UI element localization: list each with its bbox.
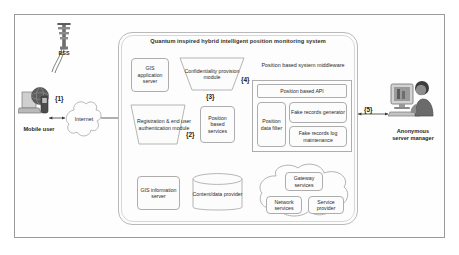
confidentiality-provision-module-node[interactable]: Confidentiality provision module	[179, 57, 245, 91]
gis-information-server-node[interactable]: GIS information server	[137, 176, 180, 210]
network-services-node[interactable]: Network services	[266, 196, 302, 214]
position-based-api-node[interactable]: Position based API	[257, 84, 347, 98]
step-marker-3: {3}	[206, 93, 215, 100]
step-marker-5: {5}	[364, 106, 373, 113]
registration-authentication-module-label: Registration & end user authentication m…	[130, 104, 198, 145]
fake-records-generator-node[interactable]: Fake records generator	[289, 102, 347, 123]
internet-cloud: Internet	[64, 97, 104, 141]
server-manager-label: Anonymous server manager	[384, 128, 442, 143]
bss-label: BSS	[44, 50, 84, 56]
diagram-root: BSS Mobile user Internet Quantum inspire…	[0, 0, 459, 255]
gis-application-server-node[interactable]: GIS application server	[131, 58, 169, 92]
gateway-services-node[interactable]: Gateway services	[285, 172, 323, 191]
server-manager-icon	[388, 76, 436, 124]
system-title: Quantum inspired hybrid intelligent posi…	[120, 38, 356, 44]
step-marker-2: {2}	[186, 131, 195, 138]
internet-label: Internet	[64, 97, 104, 141]
mobile-user-icon	[18, 82, 60, 118]
service-provider-node[interactable]: Service provider	[308, 196, 344, 214]
registration-authentication-module-node[interactable]: Registration & end user authentication m…	[130, 104, 186, 145]
position-data-filter-node[interactable]: Position data filter	[257, 102, 286, 147]
step-marker-1: {1}	[55, 95, 64, 102]
mobile-user-label: Mobile user	[12, 126, 66, 133]
content-data-provider-label: Content/data provider	[192, 176, 243, 212]
middleware-label: Position based system middleware	[258, 62, 348, 69]
fake-records-log-maintenance-node[interactable]: Fake records log maintenance	[289, 126, 347, 147]
position-based-services-node[interactable]: Position based services	[200, 106, 235, 143]
server-manager-label-line2: server manager	[392, 135, 434, 141]
server-manager-label-line1: Anonymous	[397, 128, 429, 134]
step-marker-4: {4}	[241, 76, 250, 83]
bss-tower-icon	[55, 22, 73, 50]
content-data-provider-node[interactable]: Content/data provider	[192, 172, 243, 214]
confidentiality-provision-module-label: Confidentiality provision module	[179, 57, 245, 91]
